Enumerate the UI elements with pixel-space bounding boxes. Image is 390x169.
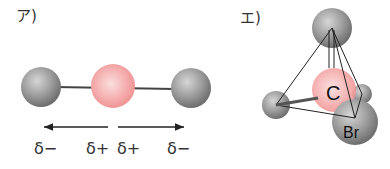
bromine-label: Br [343, 124, 360, 141]
charge-label-center-right: δ+ [117, 139, 140, 158]
carbon-label: C [326, 82, 340, 104]
linear-molecule [21, 64, 211, 108]
outer-atom-right [171, 68, 211, 108]
tetrahedral-molecule: C Br [262, 8, 378, 145]
center-atom [91, 64, 135, 108]
charge-label-left: δ− [34, 139, 57, 158]
outer-atom-left [21, 67, 61, 107]
charge-label-right: δ− [167, 139, 190, 158]
molecule-diagram: C Br [0, 0, 390, 169]
charge-label-center-left: δ+ [86, 139, 109, 158]
